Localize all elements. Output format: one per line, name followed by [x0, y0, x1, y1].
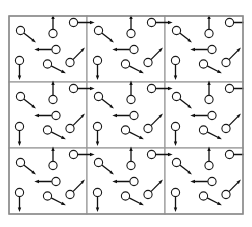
vector-upper-right-right: [147, 18, 155, 26]
vector-lower-right-up-right: [66, 58, 74, 66]
vector-upper-right-right: [69, 150, 77, 158]
vector-lower-center-down-right: [199, 192, 207, 200]
vector-upper-left-down-right: [172, 26, 180, 34]
vector-lower-right-up-right: [222, 58, 230, 66]
vector-lower-left-down: [15, 188, 23, 196]
vector-upper-center-up: [49, 161, 57, 169]
vector-upper-right-right: [69, 18, 77, 26]
vector-middle-center-left: [52, 177, 60, 185]
vector-lower-center-down-right: [43, 126, 51, 134]
vector-upper-left-down-right: [94, 26, 102, 34]
vector-lower-right-up-right: [144, 124, 152, 132]
vector-upper-right-right: [225, 150, 233, 158]
vector-upper-center-up: [205, 161, 213, 169]
vector-middle-center-left: [208, 45, 216, 53]
vector-upper-left-down-right: [16, 92, 24, 100]
vector-lower-center-down-right: [121, 192, 129, 200]
vector-middle-center-left: [130, 45, 138, 53]
vector-upper-center-up: [49, 29, 57, 37]
vector-lower-center-down-right: [43, 192, 51, 200]
vector-upper-center-up: [205, 29, 213, 37]
vector-upper-center-up: [127, 161, 135, 169]
vector-lower-right-up-right: [144, 190, 152, 198]
vector-upper-left-down-right: [172, 92, 180, 100]
vector-upper-center-up: [127, 29, 135, 37]
vector-lower-left-down: [171, 122, 179, 130]
arrow-head: [246, 21, 251, 24]
vector-middle-center-left: [52, 45, 60, 53]
vector-upper-center-up: [205, 95, 213, 103]
vector-lower-right-up-right: [66, 124, 74, 132]
vector-upper-left-down-right: [16, 26, 24, 34]
vector-middle-center-left: [130, 111, 138, 119]
arrow-head: [246, 153, 251, 156]
vector-lower-left-down: [15, 56, 23, 64]
vector-lower-center-down-right: [199, 60, 207, 68]
vector-lower-left-down: [171, 188, 179, 196]
arrow-head: [246, 87, 251, 90]
vector-lower-left-down: [171, 56, 179, 64]
vector-lower-right-up-right: [222, 190, 230, 198]
vector-lower-left-down: [15, 122, 23, 130]
vector-upper-right-right: [225, 84, 233, 92]
vector-lower-left-down: [93, 188, 101, 196]
vector-middle-center-left: [52, 111, 60, 119]
vector-upper-left-down-right: [94, 158, 102, 166]
vector-upper-left-down-right: [172, 158, 180, 166]
vector-upper-right-right: [147, 84, 155, 92]
vector-middle-center-left: [208, 177, 216, 185]
tiling-diagram: [0, 0, 252, 227]
vector-upper-center-up: [127, 95, 135, 103]
vector-lower-right-up-right: [144, 58, 152, 66]
figure-root: [0, 0, 252, 227]
vector-upper-right-right: [147, 150, 155, 158]
vector-lower-center-down-right: [43, 60, 51, 68]
vector-upper-right-right: [225, 18, 233, 26]
vector-lower-right-up-right: [66, 190, 74, 198]
vector-lower-right-up-right: [222, 124, 230, 132]
vector-upper-center-up: [49, 95, 57, 103]
vector-middle-center-left: [208, 111, 216, 119]
vector-upper-left-down-right: [94, 92, 102, 100]
vector-lower-center-down-right: [199, 126, 207, 134]
vector-middle-center-left: [130, 177, 138, 185]
vector-lower-center-down-right: [121, 126, 129, 134]
vector-upper-right-right: [69, 84, 77, 92]
vector-lower-center-down-right: [121, 60, 129, 68]
vector-upper-left-down-right: [16, 158, 24, 166]
vector-lower-left-down: [93, 122, 101, 130]
vector-lower-left-down: [93, 56, 101, 64]
